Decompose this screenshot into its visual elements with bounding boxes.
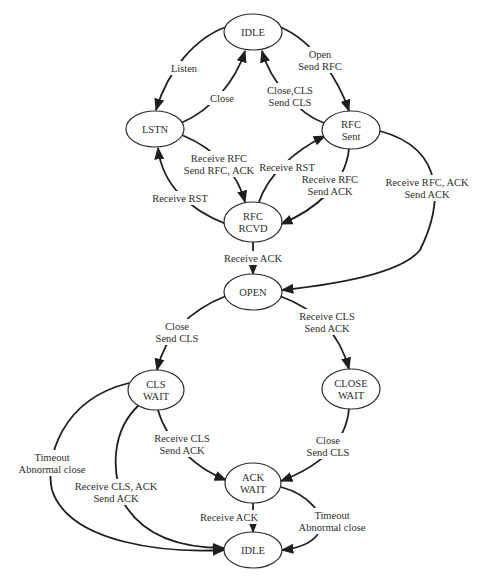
transition-label: Receive RFC, ACKSend ACK xyxy=(380,175,474,201)
label-line: Send ACK xyxy=(159,445,205,456)
transition-label: Receive CLSSend ACK xyxy=(149,431,215,457)
transition-label: Close,CLSSend CLS xyxy=(263,83,317,109)
state-label: OPEN xyxy=(239,287,267,298)
label-line: Timeout xyxy=(34,452,69,463)
state-label: Sent xyxy=(342,131,361,142)
state-label: RFC xyxy=(341,119,361,130)
state-close-wait: CLOSEWAIT xyxy=(322,369,380,409)
label-line: Send ACK xyxy=(304,323,350,334)
transition-label: Receive RFCSend RFC, ACK xyxy=(181,151,258,177)
transition-label: Receive RST xyxy=(254,160,320,174)
label-line: Receive RFC xyxy=(191,153,247,164)
transition-label: CloseSend CLS xyxy=(153,319,202,345)
state-idle-bottom: IDLE xyxy=(224,532,282,568)
label-line: Receive RST xyxy=(259,162,315,173)
state-open: OPEN xyxy=(224,274,282,310)
transition-label: CloseSend CLS xyxy=(304,433,353,459)
arrow-icon xyxy=(116,405,224,548)
transition-label: Receive RFCSend ACK xyxy=(297,172,363,198)
state-cls-wait: CLSWAIT xyxy=(128,370,184,410)
label-line: Receive CLS, ACK xyxy=(75,481,158,492)
state-idle-top: IDLE xyxy=(224,14,282,50)
state-rfc-rcvd: RFCRCVD xyxy=(224,202,282,242)
label-line: Abnormal close xyxy=(299,522,366,533)
transition-rfc_sent-to-open xyxy=(282,131,435,290)
transition-label: Receive CLS, ACKSend ACK xyxy=(69,479,163,505)
state-ack-wait: ACKWAIT xyxy=(225,463,281,503)
label-line: Receive ACK xyxy=(224,253,282,264)
label-line: Close xyxy=(316,435,340,446)
transition-cls_wait-to-idle_bottom xyxy=(116,405,224,548)
state-diagram: ListenCloseOpenSend RFCClose,CLSSend CLS… xyxy=(0,0,487,582)
transition-label: TimeoutAbnormal close xyxy=(11,450,93,476)
label-line: Send RFC xyxy=(298,61,341,72)
label-line: Close xyxy=(165,321,189,332)
label-line: Receive RFC xyxy=(302,174,358,185)
state-label: ACK xyxy=(242,472,265,483)
state-rfc-sent: RFCSent xyxy=(322,111,380,149)
transition-label: Receive CLSSend ACK xyxy=(294,309,360,335)
transition-label: TimeoutAbnormal close xyxy=(291,508,373,534)
state-label: WAIT xyxy=(143,391,170,402)
state-label: LSTN xyxy=(142,124,169,135)
label-line: Close,CLS xyxy=(267,85,313,96)
state-label: IDLE xyxy=(241,545,265,556)
transition-label: Close xyxy=(206,91,238,105)
arrow-icon xyxy=(282,131,435,290)
transition-label: Receive RST xyxy=(147,191,213,205)
state-label: CLS xyxy=(146,379,165,390)
label-line: Close xyxy=(210,93,234,104)
label-line: Abnormal close xyxy=(19,464,86,475)
label-line: Receive ACK xyxy=(200,512,258,523)
state-label: WAIT xyxy=(240,484,267,495)
state-label: IDLE xyxy=(241,27,265,38)
label-line: Send RFC, ACK xyxy=(184,165,255,176)
label-line: Send ACK xyxy=(93,493,139,504)
label-line: Send CLS xyxy=(269,97,312,108)
label-line: Send CLS xyxy=(156,333,199,344)
transition-label: Receive ACK xyxy=(196,510,262,524)
label-line: Send ACK xyxy=(404,189,450,200)
label-line: Timeout xyxy=(314,510,349,521)
label-line: Listen xyxy=(171,63,198,74)
label-line: Receive RFC, ACK xyxy=(385,177,469,188)
states: IDLELSTNRFCSentRFCRCVDOPENCLSWAITCLOSEWA… xyxy=(126,14,380,568)
state-label: WAIT xyxy=(338,390,365,401)
label-line: Receive CLS xyxy=(299,311,355,322)
label-line: Open xyxy=(309,49,332,60)
label-line: Receive RST xyxy=(152,193,208,204)
state-label: RFC xyxy=(243,211,263,222)
transition-label: Listen xyxy=(165,61,203,75)
label-line: Send CLS xyxy=(307,447,350,458)
label-line: Send ACK xyxy=(307,186,353,197)
transition-label: Receive ACK xyxy=(220,251,286,265)
transition-label: OpenSend RFC xyxy=(296,47,345,73)
label-line: Receive CLS xyxy=(154,433,210,444)
state-label: CLOSE xyxy=(334,378,367,389)
state-lstn: LSTN xyxy=(126,111,184,147)
state-label: RCVD xyxy=(238,223,268,234)
